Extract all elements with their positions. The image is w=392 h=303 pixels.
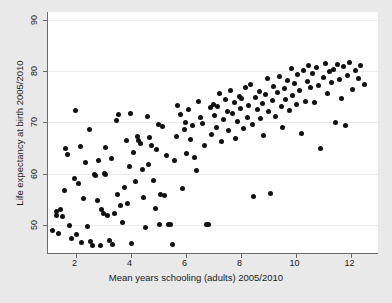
data-point	[116, 112, 121, 117]
data-point	[238, 106, 243, 111]
data-point	[339, 96, 344, 101]
data-point	[280, 125, 285, 130]
data-point	[63, 146, 68, 151]
data-point	[333, 120, 338, 125]
data-point	[263, 92, 268, 97]
data-point	[146, 162, 151, 167]
data-point	[261, 133, 266, 138]
data-point	[356, 76, 361, 81]
data-point	[202, 143, 207, 148]
y-tick-label: 70	[29, 117, 39, 127]
data-point	[174, 134, 179, 139]
gridline-y	[48, 122, 378, 123]
data-point	[127, 164, 132, 169]
data-point	[341, 64, 346, 69]
data-point	[219, 139, 224, 144]
y-tick	[43, 225, 48, 226]
y-tick-label: 80	[29, 66, 39, 76]
data-point	[133, 179, 138, 184]
data-point	[196, 99, 201, 104]
x-tick-label: 12	[344, 258, 354, 268]
data-point	[90, 243, 95, 248]
data-point	[74, 232, 79, 237]
data-point	[316, 83, 321, 88]
data-point	[335, 62, 340, 67]
scatter-plot-figure: 5060708090 24681012 Life expectancy at b…	[0, 0, 392, 303]
data-point	[268, 191, 273, 196]
data-point	[110, 242, 115, 247]
data-point	[154, 147, 159, 152]
data-point	[337, 77, 342, 82]
data-point	[248, 82, 253, 87]
data-point	[103, 145, 108, 150]
gridline-y	[48, 225, 378, 226]
data-point	[215, 104, 220, 109]
data-point	[168, 222, 173, 227]
data-point	[194, 168, 199, 173]
data-point	[96, 158, 101, 163]
x-tick-label: 2	[72, 258, 77, 268]
y-tick-label: 90	[29, 15, 39, 25]
data-point	[303, 99, 308, 104]
data-point	[350, 87, 355, 92]
data-point	[297, 88, 302, 93]
data-point	[120, 220, 125, 225]
data-point	[273, 114, 278, 119]
data-point	[79, 240, 84, 245]
data-point	[287, 108, 292, 113]
data-point	[305, 79, 310, 84]
y-tick	[43, 122, 48, 123]
data-point	[62, 188, 67, 193]
data-point	[260, 101, 265, 106]
data-point	[321, 75, 326, 80]
data-point	[214, 125, 219, 130]
x-tick-label: 4	[127, 258, 132, 268]
data-point	[241, 126, 246, 131]
data-point	[251, 194, 256, 199]
data-point	[98, 243, 103, 248]
data-point	[306, 63, 311, 68]
data-point	[58, 207, 63, 212]
data-point	[217, 91, 222, 96]
data-point	[230, 111, 235, 116]
data-point	[245, 115, 250, 120]
data-point	[250, 122, 255, 127]
data-point	[65, 152, 70, 157]
data-point	[56, 231, 61, 236]
data-point	[292, 81, 297, 86]
data-point	[170, 242, 175, 247]
data-point	[192, 155, 197, 160]
y-tick-label: 50	[29, 220, 39, 230]
data-point	[294, 102, 299, 107]
data-point	[162, 193, 167, 198]
data-point	[109, 156, 114, 161]
data-point	[212, 113, 217, 118]
data-point	[232, 100, 237, 105]
data-point	[246, 103, 251, 108]
data-point	[81, 196, 86, 201]
data-point	[277, 74, 282, 79]
data-point	[153, 206, 158, 211]
data-point	[145, 114, 150, 119]
data-point	[223, 97, 228, 102]
data-point	[257, 89, 262, 94]
data-point	[228, 88, 233, 93]
data-point	[209, 132, 214, 137]
data-point	[72, 176, 77, 181]
data-point	[183, 120, 188, 125]
data-point	[271, 84, 276, 89]
data-point	[299, 131, 304, 136]
data-point	[78, 144, 83, 149]
data-point	[353, 68, 358, 73]
data-point	[131, 150, 136, 155]
data-point	[329, 80, 334, 85]
data-point	[182, 127, 187, 132]
x-tick-label: 8	[237, 258, 242, 268]
data-point	[141, 195, 146, 200]
data-point	[206, 222, 211, 227]
data-point	[180, 186, 185, 191]
data-point	[115, 192, 120, 197]
data-point	[186, 107, 191, 112]
data-point	[85, 224, 90, 229]
data-point	[118, 203, 123, 208]
